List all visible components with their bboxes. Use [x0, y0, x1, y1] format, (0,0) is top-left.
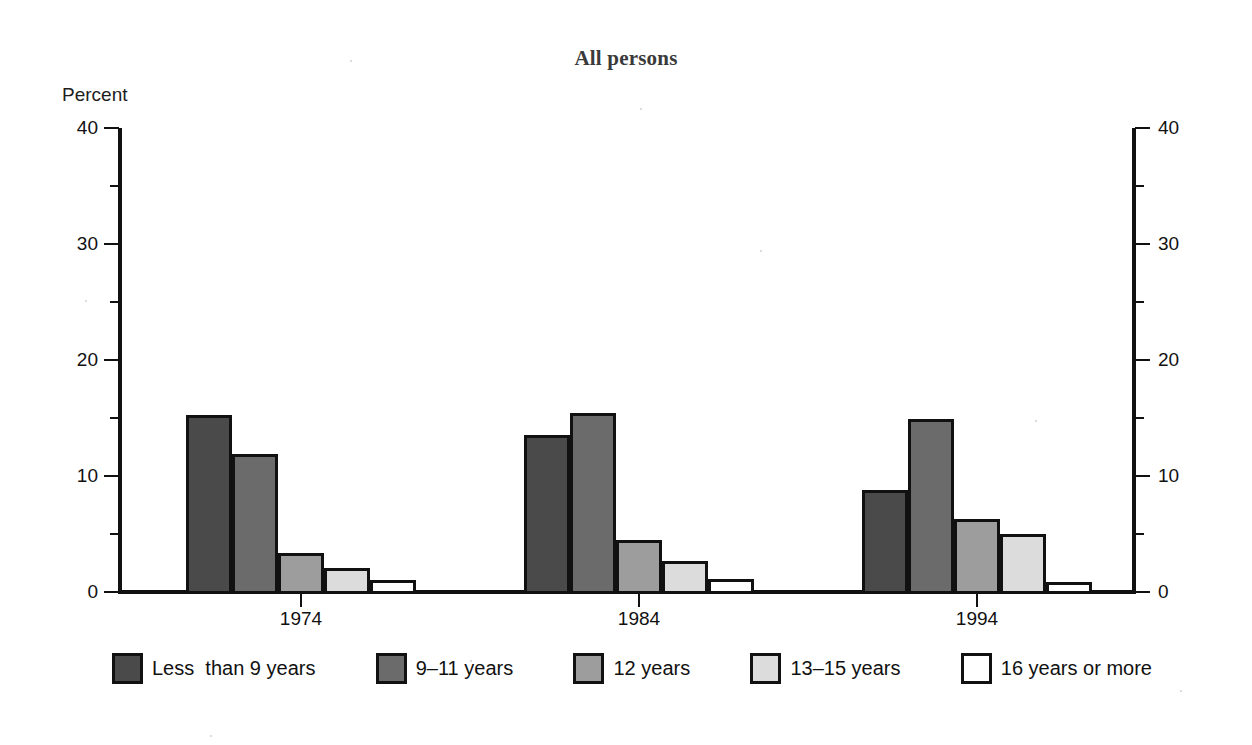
x-tick-1994 [976, 594, 978, 607]
legend-swatch-0 [112, 653, 143, 684]
scan-speck-0 [640, 108, 642, 110]
chart-title: All persons [0, 46, 1252, 71]
y-tick-label-right-10: 10 [1158, 466, 1212, 485]
chart-figure: All persons Percent 001010202030304040 1… [0, 0, 1252, 745]
scan-speck-5 [210, 735, 212, 737]
x-tick-label-1974: 1974 [231, 608, 371, 630]
y-tick-label-left-10: 10 [44, 466, 98, 485]
y-tick-label-left-40: 40 [44, 118, 98, 137]
x-tick-label-1984: 1984 [569, 608, 709, 630]
x-tick-label-1994: 1994 [907, 608, 1047, 630]
bar-1994-series-0 [862, 490, 908, 594]
y-tick-major-left-10 [104, 475, 119, 477]
right-axis-line [1132, 128, 1136, 594]
y-tick-label-right-40: 40 [1158, 118, 1212, 137]
y-tick-major-left-30 [104, 243, 119, 245]
scan-speck-2 [85, 300, 87, 302]
x-tick-1984 [638, 594, 640, 607]
legend-label-0: Less than 9 years [152, 657, 315, 680]
legend-label-2: 12 years [613, 657, 690, 680]
y-tick-label-right-0: 0 [1158, 582, 1212, 601]
legend-swatch-2 [573, 653, 604, 684]
bar-1984-series-1 [570, 413, 616, 594]
bar-1974-series-2 [278, 553, 324, 594]
bar-1974-series-1 [232, 454, 278, 594]
y-tick-major-left-40 [104, 127, 119, 129]
legend-label-1: 9–11 years [416, 657, 513, 680]
y-tick-major-right-40 [1135, 127, 1150, 129]
bar-1984-series-3 [662, 561, 708, 594]
y-tick-label-left-20: 20 [44, 350, 98, 369]
y-tick-major-left-0 [104, 591, 119, 593]
y-tick-major-right-30 [1135, 243, 1150, 245]
bar-1994-series-1 [908, 419, 954, 594]
left-axis-line [118, 128, 122, 594]
y-tick-label-right-20: 20 [1158, 350, 1212, 369]
y-tick-minor-right-5 [1135, 533, 1144, 535]
bar-1974-series-3 [324, 568, 370, 594]
y-tick-label-left-30: 30 [44, 234, 98, 253]
legend-item-4: 16 years or more [961, 653, 1152, 684]
scan-speck-4 [760, 250, 762, 252]
legend-item-2: 12 years [573, 653, 690, 684]
y-tick-minor-left-15 [110, 417, 119, 419]
chart-legend: Less than 9 years9–11 years12 years13–15… [112, 645, 1152, 691]
y-tick-minor-left-25 [110, 301, 119, 303]
y-tick-minor-right-15 [1135, 417, 1144, 419]
scan-speck-1 [1035, 420, 1037, 422]
y-tick-label-right-30: 30 [1158, 234, 1212, 253]
scan-speck-3 [470, 660, 472, 662]
y-tick-major-right-0 [1135, 591, 1150, 593]
y-tick-minor-left-35 [110, 185, 119, 187]
legend-item-0: Less than 9 years [112, 653, 315, 684]
y-tick-major-right-10 [1135, 475, 1150, 477]
y-tick-minor-left-5 [110, 533, 119, 535]
legend-swatch-4 [961, 653, 992, 684]
legend-label-3: 13–15 years [790, 657, 900, 680]
bar-1994-series-4 [1046, 582, 1092, 594]
legend-swatch-3 [750, 653, 781, 684]
bar-1984-series-2 [616, 540, 662, 594]
legend-swatch-1 [376, 653, 407, 684]
bar-1974-series-0 [186, 415, 232, 594]
x-tick-1974 [300, 594, 302, 607]
bar-1984-series-0 [524, 435, 570, 594]
bar-1994-series-3 [1000, 534, 1046, 594]
legend-item-3: 13–15 years [750, 653, 900, 684]
scan-speck-7 [350, 60, 352, 62]
y-axis-title: Percent [62, 84, 127, 106]
y-tick-minor-right-35 [1135, 185, 1144, 187]
bar-1974-series-4 [370, 580, 416, 594]
y-tick-label-left-0: 0 [44, 582, 98, 601]
y-tick-major-right-20 [1135, 359, 1150, 361]
legend-label-4: 16 years or more [1001, 657, 1152, 680]
scan-speck-6 [1180, 690, 1182, 692]
legend-item-1: 9–11 years [376, 653, 513, 684]
y-tick-minor-right-25 [1135, 301, 1144, 303]
bar-1994-series-2 [954, 519, 1000, 594]
y-tick-major-left-20 [104, 359, 119, 361]
bar-1984-series-4 [708, 579, 754, 594]
